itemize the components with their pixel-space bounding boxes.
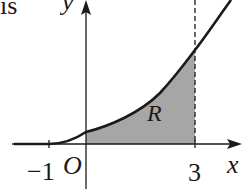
region-label: R	[146, 100, 162, 126]
shaded-region-r	[86, 50, 195, 144]
graph-figure: is y −1 O R 3 x	[0, 0, 250, 189]
leading-text: is	[0, 0, 17, 20]
origin-label: O	[63, 151, 82, 180]
tick-label-minus-1: −1	[27, 157, 55, 186]
x-axis-label: x	[226, 150, 239, 179]
tick-label-3: 3	[188, 158, 201, 187]
y-axis-label: y	[59, 0, 74, 16]
